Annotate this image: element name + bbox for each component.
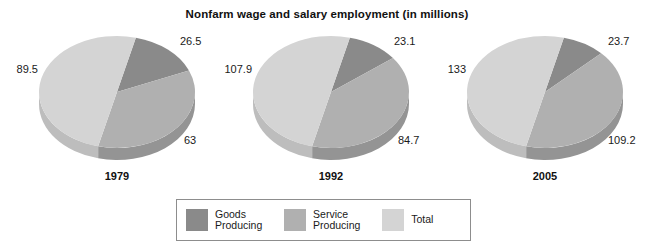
pie-chart-2005: 133 23.7 109.2 2005 [436,30,654,195]
legend-item-goods-producing: Goods Producing [186,209,284,232]
value-label-total: 89.5 [8,63,38,75]
legend-label-line2: Producing [313,220,360,232]
pie-graphic [250,32,412,164]
year-label: 1979 [8,170,226,182]
legend-swatch-service-producing [284,209,306,231]
value-label-goods-producing: 23.1 [394,35,415,47]
pie-chart-1979: 89.5 26.5 63 1979 [8,30,226,195]
legend-label-total: Total [411,214,433,226]
value-label-total: 133 [438,63,466,75]
pie-chart-figure: Nonfarm wage and salary employment (in m… [0,0,654,250]
legend-label-service-producing: Service Producing [313,209,360,232]
pie-graphic [36,32,198,164]
legend-item-total: Total [382,209,461,231]
year-label: 1992 [222,170,440,182]
legend-label-line1: Goods [215,208,246,220]
legend-item-service-producing: Service Producing [284,209,382,232]
chart-title: Nonfarm wage and salary employment (in m… [0,8,654,20]
value-label-service-producing: 109.2 [608,134,636,146]
value-label-total: 107.9 [216,63,252,75]
year-label: 2005 [436,170,654,182]
legend-label-line2: Producing [215,220,262,232]
legend-swatch-total [382,209,404,231]
value-label-service-producing: 84.7 [398,134,419,146]
legend-label-line1: Total [411,213,433,225]
legend-label-goods-producing: Goods Producing [215,209,262,232]
value-label-goods-producing: 23.7 [608,35,629,47]
value-label-service-producing: 63 [184,134,196,146]
pie-graphic [464,32,626,164]
pie-chart-1992: 107.9 23.1 84.7 1992 [222,30,440,195]
legend-label-line1: Service [313,208,348,220]
chart-legend: Goods Producing Service Producing Total [176,199,471,241]
value-label-goods-producing: 26.5 [180,35,201,47]
legend-swatch-goods-producing [186,209,208,231]
